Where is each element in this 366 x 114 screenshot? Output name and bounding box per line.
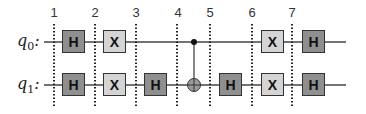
column-label: 5 xyxy=(203,5,217,20)
column-label: 7 xyxy=(285,5,299,20)
h-gate-q1-col7: H xyxy=(302,73,325,96)
column-label: 1 xyxy=(47,5,61,20)
x-gate-q1-col2: X xyxy=(103,73,126,96)
quantum-circuit: 1 2 3 4 5 6 7 q0: q1: H X X H H X H H X … xyxy=(0,0,366,114)
column-label: 4 xyxy=(171,5,185,20)
h-gate-q0-col1: H xyxy=(62,30,85,53)
h-gate-q1-col3: H xyxy=(144,73,167,96)
control-dot-icon xyxy=(191,39,197,45)
column-label: 2 xyxy=(88,5,102,20)
x-gate-q0-col2: X xyxy=(103,30,126,53)
column-label: 6 xyxy=(245,5,259,20)
x-gate-q1-col6: X xyxy=(261,73,284,96)
qubit-label-q0: q0: xyxy=(17,31,40,53)
x-gate-q0-col6: X xyxy=(261,30,284,53)
h-gate-q1-col1: H xyxy=(62,73,85,96)
qubit-label-q1: q1: xyxy=(17,74,40,96)
column-label: 3 xyxy=(129,5,143,20)
h-gate-q0-col7: H xyxy=(302,30,325,53)
barriers xyxy=(54,24,292,106)
h-gate-q1-col5: H xyxy=(219,73,242,96)
cnot-gate xyxy=(188,39,201,92)
